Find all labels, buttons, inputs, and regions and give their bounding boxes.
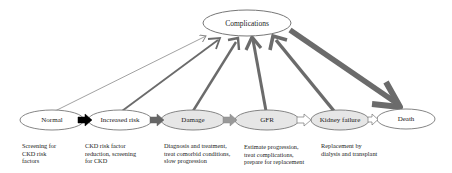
stage-label-normal: Normal	[41, 116, 62, 124]
complications-label: Complications	[225, 19, 269, 28]
description-line: reduction, screening	[85, 150, 136, 158]
stage-description-gfr: Estimate progression, treat complication…	[244, 143, 304, 166]
arrow-kidney-to-death	[368, 114, 378, 125]
stage-label-damage: Damage	[181, 116, 204, 124]
description-line: for CKD	[85, 157, 136, 165]
description-line: slow progression	[164, 157, 230, 165]
description-line: Replacement by	[321, 142, 377, 150]
description-line: Screening for	[22, 142, 56, 150]
complication-arrows	[55, 30, 400, 111]
stage-description-increased-risk: CKD risk factor reduction, screening for…	[85, 142, 136, 165]
description-line: Estimate progression,	[244, 143, 304, 151]
stage-description-normal: Screening for CKD risk factors	[22, 142, 56, 165]
stage-label-kidney-failure: Kidney failure	[320, 116, 361, 124]
description-line: CKD risk factor	[85, 142, 136, 150]
description-line: prepare for replacement	[244, 158, 304, 166]
stage-label-increased-risk: Increased risk	[100, 116, 139, 124]
description-line: treat comorbid conditions,	[164, 150, 230, 158]
stage-description-kidney-failure: Replacement by dialysis and transplant	[321, 142, 377, 157]
description-line: Diagnosis and treatment,	[164, 142, 230, 150]
arrow-gfr-to-kidney	[297, 114, 311, 126]
arrow-increased-to-damage	[150, 114, 164, 126]
stage-label-gfr: GFR	[260, 116, 274, 124]
arrow-damage-to-gfr	[223, 114, 237, 126]
description-line: CKD risk	[22, 150, 56, 158]
description-line: dialysis and transplant	[321, 150, 377, 158]
description-line: treat complications,	[244, 151, 304, 159]
description-line: factors	[22, 157, 56, 165]
stage-label-death: Death	[398, 115, 415, 123]
stage-description-damage: Diagnosis and treatment, treat comorbid …	[164, 142, 230, 165]
